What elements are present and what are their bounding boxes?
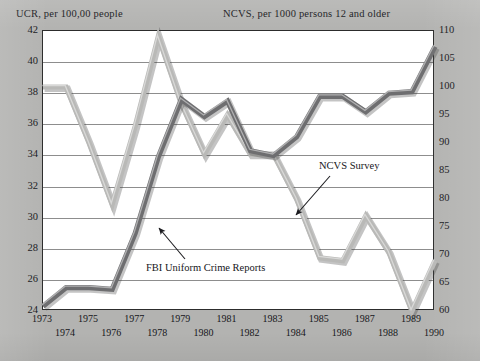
annotation-ncvs-survey: NCVS Survey (319, 160, 379, 171)
x-tick-label: 1982 (233, 327, 267, 338)
x-tick-label: 1976 (94, 327, 128, 338)
left-tick-label: 32 (14, 181, 38, 191)
right-tick-label: 75 (439, 221, 465, 231)
right-tick-label: 105 (439, 53, 465, 63)
x-tick-label: 1978 (140, 327, 174, 338)
left-axis-title: UCR, per 100,00 people (16, 8, 123, 19)
x-tick-label: 1977 (117, 313, 151, 324)
annotation-fbi-ucr: FBI Uniform Crime Reports (146, 262, 265, 273)
x-tick-label: 1975 (71, 313, 105, 324)
right-axis-title: NCVS, per 1000 persons 12 and older (223, 8, 390, 19)
right-tick-label: 95 (439, 109, 465, 119)
left-tick-label: 28 (14, 243, 38, 253)
x-tick-label: 1985 (302, 313, 336, 324)
right-tick-label: 85 (439, 165, 465, 175)
x-tick-label: 1989 (394, 313, 428, 324)
x-tick-label: 1980 (186, 327, 220, 338)
right-tick-label: 100 (439, 81, 465, 91)
left-tick-label: 30 (14, 212, 38, 222)
right-tick-label: 65 (439, 277, 465, 287)
right-tick-label: 90 (439, 137, 465, 147)
left-tick-label: 26 (14, 274, 38, 284)
right-tick-label: 110 (439, 25, 465, 35)
left-tick-label: 42 (14, 25, 38, 35)
x-tick-label: 1983 (256, 313, 290, 324)
right-tick-label: 80 (439, 193, 465, 203)
left-tick-label: 36 (14, 118, 38, 128)
left-tick-label: 40 (14, 56, 38, 66)
right-tick-label: 60 (439, 305, 465, 315)
x-tick-label: 1987 (348, 313, 382, 324)
x-tick-label: 1984 (279, 327, 313, 338)
left-tick-label: 34 (14, 149, 38, 159)
x-tick-label: 1986 (325, 327, 359, 338)
chart-figure: UCR, per 100,00 people NCVS, per 1000 pe… (0, 0, 480, 361)
x-tick-label: 1988 (371, 327, 405, 338)
right-tick-label: 70 (439, 249, 465, 259)
x-tick-label: 1979 (163, 313, 197, 324)
x-tick-label: 1990 (417, 327, 451, 338)
x-tick-label: 1973 (25, 313, 59, 324)
x-tick-label: 1981 (209, 313, 243, 324)
x-tick-label: 1974 (48, 327, 82, 338)
left-tick-label: 38 (14, 87, 38, 97)
